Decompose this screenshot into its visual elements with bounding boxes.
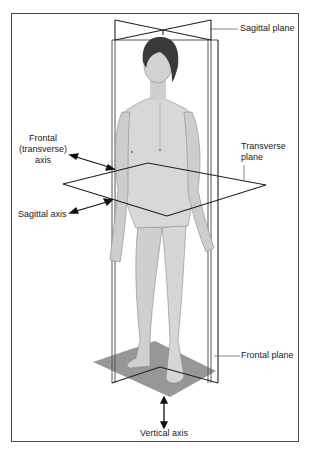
anatomical-planes-diagram [0, 0, 312, 453]
frontal-axis-arrow [70, 154, 114, 170]
frontal-plane-label: Frontal plane [241, 350, 294, 361]
frontal-axis-label-line1: Frontal [18, 133, 68, 144]
transverse-plane-label-line1: Transverse [241, 141, 286, 152]
frontal-axis-label-line2: (transverse) [18, 144, 68, 155]
frontal-axis-label: Frontal (transverse) axis [18, 133, 68, 166]
transverse-plane-label: Transverse plane [241, 141, 286, 163]
sagittal-axis-arrow [70, 199, 112, 213]
transverse-plane-label-line2: plane [241, 152, 286, 163]
leader-lines [210, 29, 244, 356]
vertical-axis-arrow [161, 397, 167, 428]
human-figure [110, 37, 214, 383]
vertical-axis-label: Vertical axis [140, 428, 188, 439]
sagittal-plane-label: Sagittal plane [240, 23, 295, 34]
frontal-axis-label-line3: axis [18, 155, 68, 166]
sagittal-axis-label: Sagittal axis [18, 209, 67, 220]
